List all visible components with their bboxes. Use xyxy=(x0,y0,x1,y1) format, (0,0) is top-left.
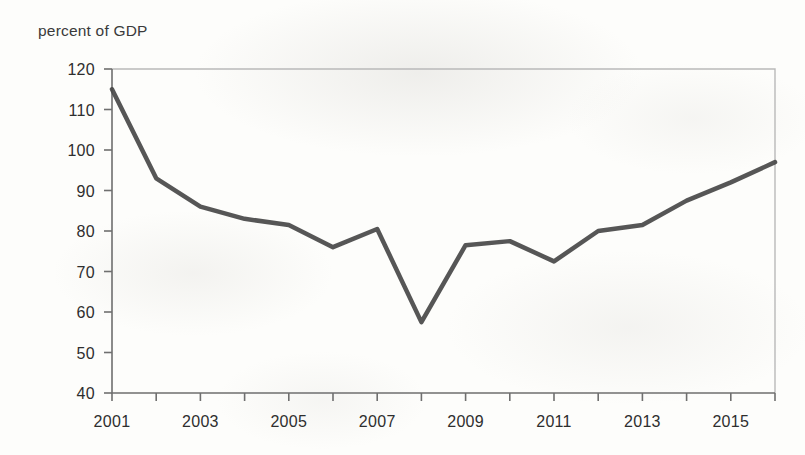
y-axis-tick-label: 90 xyxy=(77,183,95,200)
x-axis-tick-label: 2005 xyxy=(270,413,307,430)
x-axis-tick-label: 2003 xyxy=(182,413,219,430)
y-axis-tick-label: 60 xyxy=(77,304,95,321)
line-chart: percent of GDP 405060708090100110120 200… xyxy=(0,0,805,455)
x-axis-tick-label: 2011 xyxy=(536,413,572,430)
plot-area: 405060708090100110120 200120032005200720… xyxy=(0,0,805,455)
y-axis-tick-label: 50 xyxy=(77,345,95,362)
y-axis-tick-label: 40 xyxy=(77,385,95,402)
y-axis-tick-label: 80 xyxy=(77,223,95,240)
y-axis-ticks: 405060708090100110120 xyxy=(67,61,112,402)
y-axis-tick-label: 100 xyxy=(67,142,95,159)
data-series-line xyxy=(112,89,775,322)
x-axis-tick-label: 2013 xyxy=(624,413,661,430)
x-axis-ticks: 20012003200520072009201120132015 xyxy=(94,393,775,430)
y-axis-tick-label: 70 xyxy=(77,264,95,281)
plot-frame xyxy=(112,69,775,393)
y-axis-tick-label: 120 xyxy=(67,61,95,78)
x-axis-tick-label: 2015 xyxy=(712,413,749,430)
x-axis-tick-label: 2009 xyxy=(447,413,484,430)
y-axis-tick-label: 110 xyxy=(69,102,95,119)
x-axis-tick-label: 2001 xyxy=(94,413,131,430)
x-axis-tick-label: 2007 xyxy=(359,413,396,430)
